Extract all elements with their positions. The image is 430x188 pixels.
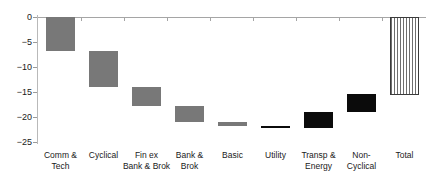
zero-baseline [38,17,426,18]
bar-non-cyclical [347,94,376,112]
bar-total [390,17,419,95]
y-tick-label-m10: −10 [2,63,32,72]
y-tick-label-m15: −15 [2,88,32,97]
x-tick-mark-1 [81,18,82,21]
bar-fin-ex-bank-brok [132,87,161,106]
x-label-total: Total [376,150,430,161]
y-tick-mark-0 [33,17,37,18]
bar-basic [218,122,247,126]
bar-utility [261,126,290,128]
bar-transp-energy [304,112,333,128]
x-tick-mark-8 [382,18,383,21]
x-tick-mark-7 [339,18,340,21]
waterfall-chart: 0 −5 −10 −15 −20 −25 Comm & Tech Cy [0,0,430,188]
y-tick-mark-m5 [33,42,37,43]
y-tick-label-m5: −5 [2,38,32,47]
bar-bank-brok [175,106,204,122]
y-tick-label-0: 0 [2,13,32,22]
y-tick-mark-m25 [33,142,37,143]
bar-cyclical [89,51,118,87]
x-tick-mark-5 [253,18,254,21]
y-tick-label-m20: −20 [2,113,32,122]
y-axis-line [37,15,38,144]
x-tick-mark-4 [210,18,211,21]
y-tick-mark-m15 [33,92,37,93]
y-tick-mark-m20 [33,117,37,118]
x-tick-mark-2 [124,18,125,21]
y-axis-tick-labels: 0 −5 −10 −15 −20 −25 [0,0,32,188]
y-tick-label-m25: −25 [2,138,32,147]
bar-comm-tech [46,17,75,51]
x-tick-mark-3 [167,18,168,21]
x-tick-mark-6 [296,18,297,21]
y-tick-mark-m10 [33,67,37,68]
